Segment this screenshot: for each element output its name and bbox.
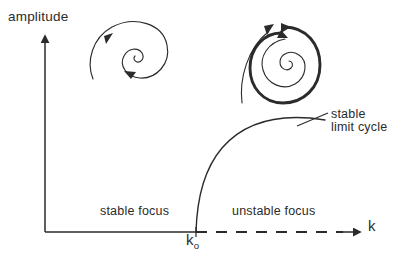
phase-portrait-limit-cycle — [241, 23, 328, 126]
y-axis-label: amplitude — [8, 10, 68, 24]
figure-canvas: amplitude k ko stable focus unstable foc… — [0, 0, 407, 269]
unstable-focus-label: unstable focus — [232, 205, 315, 218]
stable-limit-cycle-label-line2: limit cycle — [331, 121, 387, 134]
x-axis-label: k — [368, 218, 376, 234]
stable-focus-label: stable focus — [100, 205, 169, 218]
k0-base: k — [186, 231, 194, 248]
k0-subscript: o — [194, 240, 199, 251]
stable-limit-cycle-label: stable limit cycle — [331, 108, 387, 134]
phase-portrait-stable-focus — [90, 22, 167, 79]
bifurcation-diagram-graphic — [0, 0, 407, 269]
k0-label: ko — [186, 232, 199, 251]
